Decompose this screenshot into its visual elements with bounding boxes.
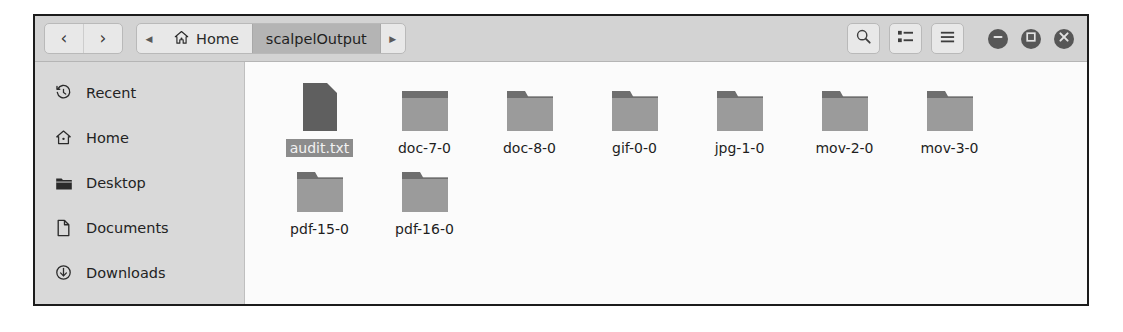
sidebar-item-downloads[interactable]: Downloads [35, 250, 244, 295]
breadcrumb-scroll-right-button[interactable]: ▶ [381, 24, 405, 53]
sidebar-item-label: Downloads [86, 265, 166, 281]
document-icon [54, 218, 73, 237]
file-label: jpg-1-0 [711, 139, 769, 157]
sidebar-item-documents[interactable]: Documents [35, 205, 244, 250]
sidebar-item-label: Desktop [86, 175, 146, 191]
file-label: doc-7-0 [394, 139, 455, 157]
breadcrumb-label: Home [196, 31, 239, 47]
clock-icon [54, 83, 73, 102]
toolbar: ‹ › ◀ Home scalpelOutput [35, 16, 1087, 62]
menu-button[interactable] [931, 23, 964, 54]
folder-filled-icon [54, 173, 73, 192]
view-list-button[interactable] [889, 23, 922, 54]
breadcrumb-scroll-left-button[interactable]: ◀ [137, 24, 161, 53]
sidebar-item-desktop[interactable]: Desktop [35, 160, 244, 205]
sidebar-item-recent[interactable]: Recent [35, 70, 244, 115]
file-label: pdf-15-0 [286, 220, 353, 238]
file-item-doc-7-0[interactable]: doc-7-0 [372, 76, 477, 157]
file-pane[interactable]: audit.txt doc-7-0 [245, 62, 1087, 304]
breadcrumb: ◀ Home scalpelOutput ▶ [136, 23, 406, 54]
maximize-icon [1021, 27, 1041, 51]
home-icon [174, 30, 189, 48]
chevron-left-icon: ‹ [61, 30, 68, 47]
sidebar-item-label: Recent [86, 85, 136, 101]
folder-icon [716, 80, 764, 132]
file-item-gif-0-0[interactable]: gif-0-0 [582, 76, 687, 157]
file-label: gif-0-0 [608, 139, 661, 157]
close-icon [1054, 27, 1074, 51]
triangle-left-icon: ◀ [146, 34, 153, 44]
hamburger-menu-icon [939, 29, 956, 48]
folder-icon [401, 161, 449, 213]
triangle-right-icon: ▶ [389, 34, 396, 44]
file-item-jpg-1-0[interactable]: jpg-1-0 [687, 76, 792, 157]
breadcrumb-label: scalpelOutput [266, 31, 367, 47]
file-label: mov-2-0 [811, 139, 877, 157]
file-label: audit.txt [286, 139, 353, 157]
folder-icon [296, 161, 344, 213]
file-item-audit-txt[interactable]: audit.txt [267, 76, 372, 157]
maximize-button[interactable] [1021, 29, 1041, 49]
breadcrumb-item-home[interactable]: Home [161, 24, 252, 53]
file-item-pdf-15-0[interactable]: pdf-15-0 [267, 157, 372, 238]
sidebar: Recent Home Desktop [35, 62, 245, 304]
folder-icon [821, 80, 869, 132]
download-arrow-icon [54, 263, 73, 282]
folder-icon [401, 80, 449, 132]
folder-icon [611, 80, 659, 132]
folder-icon [506, 80, 554, 132]
forward-button[interactable]: › [83, 24, 122, 53]
chevron-right-icon: › [100, 30, 107, 47]
window-body: Recent Home Desktop [35, 62, 1087, 304]
file-label: mov-3-0 [916, 139, 982, 157]
sidebar-item-home[interactable]: Home [35, 115, 244, 160]
file-item-mov-2-0[interactable]: mov-2-0 [792, 76, 897, 157]
sidebar-item-label: Home [86, 130, 129, 146]
back-button[interactable]: ‹ [45, 24, 83, 53]
file-label: doc-8-0 [499, 139, 560, 157]
text-file-icon [299, 80, 341, 132]
file-row: pdf-15-0 pdf-16-0 [267, 157, 1087, 238]
file-row: audit.txt doc-7-0 [267, 76, 1087, 157]
minimize-button[interactable] [988, 29, 1008, 49]
sidebar-item-label: Documents [86, 220, 169, 236]
toolbar-actions [847, 23, 1078, 54]
window-controls [988, 29, 1074, 49]
search-button[interactable] [847, 23, 880, 54]
file-label: pdf-16-0 [391, 220, 458, 238]
breadcrumb-item-scalpeloutput[interactable]: scalpelOutput [252, 24, 381, 53]
home-icon [54, 128, 73, 147]
file-item-doc-8-0[interactable]: doc-8-0 [477, 76, 582, 157]
navigation-buttons: ‹ › [44, 23, 123, 54]
folder-icon [926, 80, 974, 132]
minimize-icon [988, 27, 1008, 51]
file-manager-window: ‹ › ◀ Home scalpelOutput [33, 14, 1089, 306]
file-item-mov-3-0[interactable]: mov-3-0 [897, 76, 1002, 157]
file-item-pdf-16-0[interactable]: pdf-16-0 [372, 157, 477, 238]
search-icon [855, 28, 872, 49]
close-button[interactable] [1054, 29, 1074, 49]
list-view-icon [897, 29, 914, 48]
